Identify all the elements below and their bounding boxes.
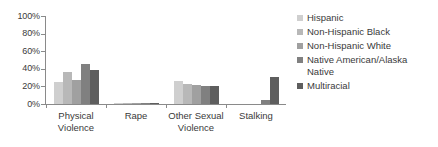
chart-legend: HispanicNon-Hispanic BlackNon-Hispanic W… (297, 12, 437, 94)
bar (150, 103, 159, 104)
x-axis-label-line: Rape (106, 110, 166, 122)
y-tick-mark (41, 104, 45, 105)
y-tick-mark (41, 51, 45, 52)
legend-swatch-icon (297, 15, 303, 21)
x-axis-label: Stalking (226, 110, 286, 122)
y-tick-mark (41, 34, 45, 35)
legend-item: Non-Hispanic White (297, 40, 437, 52)
legend-item-label: Non-Hispanic White (307, 40, 391, 52)
bar-group (234, 16, 279, 104)
x-axis-label-line: Physical (46, 110, 106, 122)
x-axis-label: Other SexualViolence (166, 110, 226, 134)
y-tick-mark (41, 86, 45, 87)
legend-item: Hispanic (297, 12, 437, 24)
x-axis-label: Rape (106, 110, 166, 122)
x-axis-label-line: Stalking (226, 110, 286, 122)
bar (90, 70, 99, 104)
legend-swatch-icon (297, 29, 303, 35)
bar (210, 86, 219, 104)
bar-group (114, 16, 159, 104)
legend-item: Multiracial (297, 80, 437, 92)
x-axis-label-line: Violence (166, 122, 226, 134)
bar (201, 86, 210, 104)
bar-group (54, 16, 99, 104)
bar (183, 84, 192, 104)
y-tick-mark (41, 69, 45, 70)
y-tick-label: 100% (2, 12, 40, 21)
x-axis-label: PhysicalViolence (46, 110, 106, 134)
legend-swatch-icon (297, 57, 303, 63)
bar (63, 72, 72, 104)
bar (192, 85, 201, 104)
bar (174, 81, 183, 104)
bar (81, 64, 90, 104)
x-tick-mark (106, 104, 107, 108)
bar-chart: 100%80%60%40%20%0% PhysicalViolenceRapeO… (0, 0, 438, 147)
x-axis-label-line: Other Sexual (166, 110, 226, 122)
y-tick-label: 20% (2, 82, 40, 91)
y-tick-label: 40% (2, 64, 40, 73)
plot-area (46, 16, 286, 104)
x-tick-mark (226, 104, 227, 108)
y-axis: 100%80%60%40%20%0% (0, 0, 40, 147)
bar (123, 103, 132, 104)
legend-item-label: Multiracial (307, 80, 350, 92)
legend-item-label: Native American/Alaska Native (307, 54, 407, 77)
bar (54, 82, 63, 104)
legend-item-label: Hispanic (307, 12, 343, 24)
y-tick-mark (41, 16, 45, 17)
y-tick-label: 80% (2, 29, 40, 38)
legend-swatch-icon (297, 43, 303, 49)
legend-item: Native American/Alaska Native (297, 54, 437, 77)
bar (261, 100, 270, 104)
bar-group (174, 16, 219, 104)
legend-item-label: Non-Hispanic Black (307, 26, 390, 38)
bar (132, 103, 141, 104)
y-tick-label: 60% (2, 47, 40, 56)
x-tick-mark (46, 104, 47, 108)
bar (270, 77, 279, 104)
x-axis-label-line: Violence (46, 122, 106, 134)
legend-item: Non-Hispanic Black (297, 26, 437, 38)
bar (141, 103, 150, 104)
bar (72, 80, 81, 104)
bar (114, 103, 123, 104)
legend-swatch-icon (297, 83, 303, 89)
x-tick-mark (166, 104, 167, 108)
y-tick-label: 0% (2, 100, 40, 109)
